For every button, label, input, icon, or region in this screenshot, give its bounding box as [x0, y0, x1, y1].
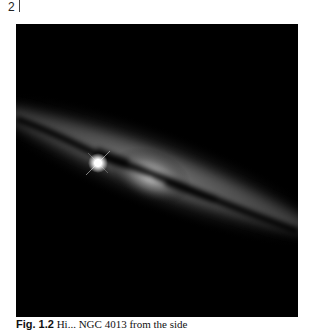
caption-text: Hi... NGC 4013 from the side [57, 318, 188, 330]
page-number-rule [19, 0, 20, 12]
galaxy-image [16, 24, 298, 317]
figure-caption: Fig. 1.2 Hi... NGC 4013 from the side [16, 318, 306, 331]
galaxy-svg [16, 24, 298, 317]
foreground-star [86, 151, 110, 175]
page-number: 2 [8, 0, 15, 14]
caption-label: Fig. 1.2 [16, 318, 54, 330]
